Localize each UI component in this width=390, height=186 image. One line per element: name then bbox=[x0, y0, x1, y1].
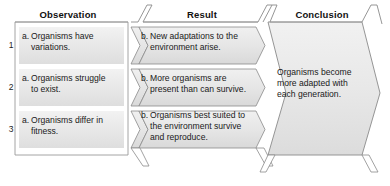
column-header-conclusion: Conclusion bbox=[272, 9, 372, 20]
conclusion-text: Organisms become more adapted with each … bbox=[277, 67, 363, 101]
observation-text: Organisms have variations. bbox=[31, 31, 107, 53]
result-text: New adaptations to the environment arise… bbox=[150, 31, 252, 53]
observation-text: Organisms differ in fitness. bbox=[31, 115, 107, 137]
result-text: Organisms best suited to the environment… bbox=[150, 110, 252, 144]
observation-marker: a. bbox=[22, 115, 31, 126]
row-number: 2 bbox=[4, 83, 18, 92]
result-cell: b.More organisms are present than can su… bbox=[141, 73, 253, 95]
observation-text: Organisms struggle to exist. bbox=[31, 73, 107, 95]
result-marker: b. bbox=[141, 31, 150, 42]
column-header-result: Result bbox=[150, 9, 254, 20]
observation-marker: a. bbox=[22, 31, 31, 42]
row-number: 1 bbox=[4, 41, 18, 50]
diagram-canvas: Observation Result Conclusion 1 2 3 a.Or… bbox=[0, 0, 390, 186]
result-text: More organisms are present than can surv… bbox=[150, 73, 252, 95]
row-number: 3 bbox=[4, 125, 18, 134]
result-cell: b.New adaptations to the environment ari… bbox=[141, 31, 253, 53]
result-cell: b.Organisms best suited to the environme… bbox=[141, 110, 253, 144]
observation-cell: a.Organisms struggle to exist. bbox=[22, 73, 108, 95]
observation-cell: a.Organisms have variations. bbox=[22, 31, 108, 53]
column-header-observation: Observation bbox=[16, 9, 120, 20]
result-marker: b. bbox=[141, 73, 150, 84]
result-marker: b. bbox=[141, 110, 150, 121]
observation-marker: a. bbox=[22, 73, 31, 84]
observation-cell: a.Organisms differ in fitness. bbox=[22, 115, 108, 137]
